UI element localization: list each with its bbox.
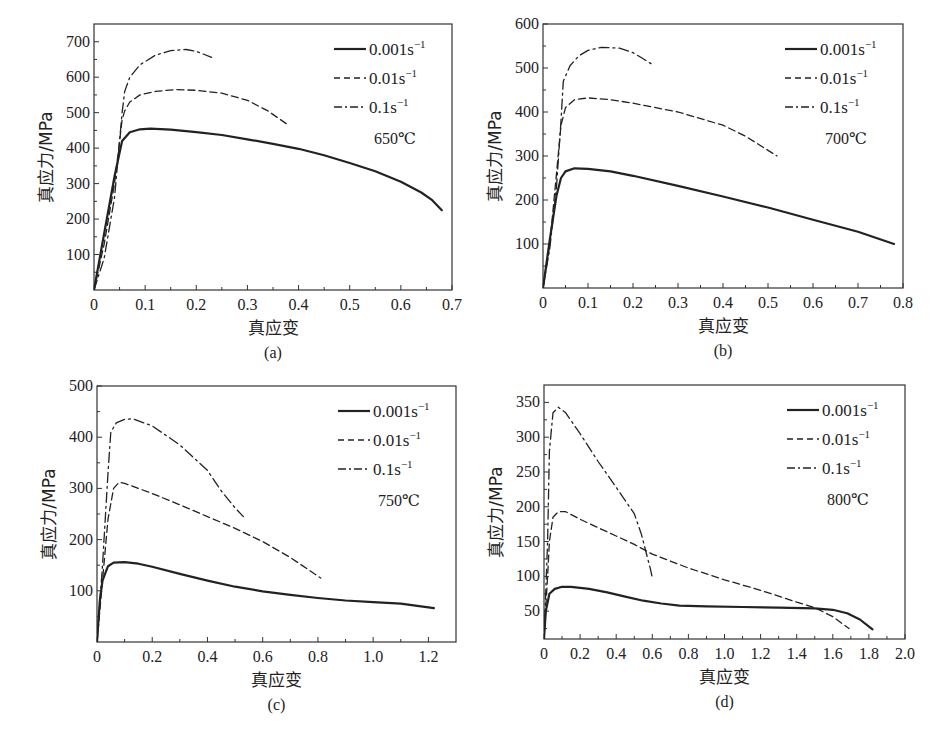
temperature-annotation: 700℃ bbox=[825, 130, 867, 147]
x-tick-label: 1.6 bbox=[823, 645, 843, 662]
y-tick-label: 400 bbox=[515, 103, 539, 120]
y-tick-label: 400 bbox=[66, 139, 90, 156]
panel-d: 00.20.40.60.81.01.21.41.61.82.0501001502… bbox=[486, 385, 915, 711]
y-tick-label: 700 bbox=[66, 33, 90, 50]
legend-label: 0.01s−1 bbox=[820, 67, 868, 88]
plot-frame bbox=[94, 24, 452, 290]
x-axis-title: 真应变 bbox=[699, 667, 750, 687]
series-line-solid bbox=[94, 129, 442, 290]
figure-canvas: 00.10.20.30.40.50.60.7100200300400500600… bbox=[0, 0, 939, 741]
y-tick-label: 250 bbox=[516, 463, 540, 480]
panel-b: 00.10.20.30.40.50.60.70.8100200300400500… bbox=[485, 15, 913, 360]
x-tick-label: 0 bbox=[539, 294, 547, 311]
x-axis-title: 真应变 bbox=[698, 316, 749, 336]
x-tick-label: 1.8 bbox=[859, 645, 879, 662]
y-tick-label: 400 bbox=[69, 428, 93, 445]
x-tick-label: 1.2 bbox=[751, 645, 771, 662]
x-tick-label: 0.3 bbox=[237, 296, 257, 313]
y-tick-label: 100 bbox=[515, 235, 539, 252]
y-tick-label: 50 bbox=[524, 602, 540, 619]
x-tick-label: 0.5 bbox=[340, 296, 360, 313]
x-tick-label: 0.6 bbox=[253, 648, 273, 665]
x-tick-label: 0.8 bbox=[678, 645, 698, 662]
x-tick-label: 0.4 bbox=[197, 648, 217, 665]
legend-label: 0.1s−1 bbox=[820, 96, 860, 117]
x-tick-label: 0.8 bbox=[893, 294, 913, 311]
y-tick-label: 350 bbox=[516, 393, 540, 410]
y-tick-label: 300 bbox=[66, 175, 90, 192]
legend-label: 0.1s−1 bbox=[822, 457, 862, 478]
x-axis-title: 真应变 bbox=[251, 670, 302, 690]
x-tick-label: 0.4 bbox=[606, 645, 626, 662]
temperature-annotation: 750℃ bbox=[378, 492, 420, 509]
temperature-annotation: 650℃ bbox=[374, 130, 416, 147]
legend-label: 0.001s−1 bbox=[373, 400, 430, 421]
x-tick-label: 0 bbox=[90, 296, 98, 313]
x-tick-label: 1.4 bbox=[787, 645, 807, 662]
x-tick-label: 0.6 bbox=[803, 294, 823, 311]
x-axis-title: 真应变 bbox=[248, 318, 299, 338]
x-tick-label: 0.6 bbox=[391, 296, 411, 313]
x-tick-label: 2.0 bbox=[895, 645, 915, 662]
panel-caption: (d) bbox=[715, 693, 734, 711]
y-tick-label: 300 bbox=[69, 479, 93, 496]
x-tick-label: 0 bbox=[540, 645, 548, 662]
series-line-dashed bbox=[544, 512, 849, 639]
panel-c: 00.20.40.60.81.01.2100200300400500真应变真应力… bbox=[39, 377, 456, 714]
x-tick-label: 0.4 bbox=[713, 294, 733, 311]
x-tick-label: 0.7 bbox=[442, 296, 462, 313]
plot-frame bbox=[543, 24, 903, 288]
legend-label: 0.01s−1 bbox=[373, 429, 421, 450]
x-tick-label: 0.8 bbox=[308, 648, 328, 665]
legend-label: 0.1s−1 bbox=[373, 458, 413, 479]
temperature-annotation: 800℃ bbox=[827, 491, 869, 508]
legend-label: 0.01s−1 bbox=[369, 67, 417, 88]
series-line-dashed bbox=[543, 98, 777, 288]
series-line-dashdot bbox=[97, 419, 243, 642]
panel-a: 00.10.20.30.40.50.60.7100200300400500600… bbox=[36, 24, 462, 362]
panel-caption: (a) bbox=[264, 344, 282, 362]
legend-label: 0.01s−1 bbox=[822, 428, 870, 449]
y-tick-label: 500 bbox=[66, 104, 90, 121]
y-tick-label: 300 bbox=[516, 428, 540, 445]
x-tick-label: 1.0 bbox=[715, 645, 735, 662]
x-tick-label: 1.0 bbox=[363, 648, 383, 665]
y-tick-label: 100 bbox=[66, 246, 90, 263]
y-tick-label: 100 bbox=[69, 582, 93, 599]
x-tick-label: 0.2 bbox=[570, 645, 590, 662]
x-tick-label: 0.6 bbox=[642, 645, 662, 662]
x-tick-label: 0.2 bbox=[142, 648, 162, 665]
panel-caption: (b) bbox=[714, 342, 733, 360]
x-tick-label: 0.3 bbox=[668, 294, 688, 311]
y-tick-label: 100 bbox=[516, 567, 540, 584]
x-tick-label: 0.1 bbox=[135, 296, 155, 313]
x-tick-label: 0.2 bbox=[186, 296, 206, 313]
x-tick-label: 0.5 bbox=[758, 294, 778, 311]
y-tick-label: 600 bbox=[66, 68, 90, 85]
panel-caption: (c) bbox=[268, 696, 286, 714]
y-tick-label: 150 bbox=[516, 533, 540, 550]
x-tick-label: 1.2 bbox=[418, 648, 438, 665]
series-line-dashed bbox=[94, 90, 288, 290]
y-tick-label: 300 bbox=[515, 147, 539, 164]
y-tick-label: 500 bbox=[69, 377, 93, 394]
x-tick-label: 0.7 bbox=[848, 294, 868, 311]
series-line-dashdot bbox=[544, 407, 652, 639]
series-line-dashdot bbox=[543, 47, 651, 288]
y-axis-title: 真应力/MPa bbox=[39, 468, 59, 559]
legend-label: 0.001s−1 bbox=[822, 399, 879, 420]
y-tick-label: 500 bbox=[515, 59, 539, 76]
legend-label: 0.1s−1 bbox=[369, 96, 409, 117]
x-tick-label: 0.4 bbox=[289, 296, 309, 313]
legend-label: 0.001s−1 bbox=[369, 38, 426, 59]
y-tick-label: 600 bbox=[515, 15, 539, 32]
legend-label: 0.001s−1 bbox=[820, 38, 877, 59]
plot-frame bbox=[544, 385, 905, 639]
y-axis-title: 真应力/MPa bbox=[36, 111, 56, 202]
x-tick-label: 0 bbox=[93, 648, 101, 665]
y-axis-title: 真应力/MPa bbox=[486, 466, 506, 557]
y-tick-label: 200 bbox=[66, 210, 90, 227]
series-line-solid bbox=[544, 587, 873, 639]
y-tick-label: 200 bbox=[516, 498, 540, 515]
x-tick-label: 0.2 bbox=[623, 294, 643, 311]
